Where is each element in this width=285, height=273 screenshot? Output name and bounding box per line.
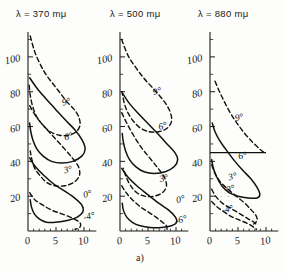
curve-label: 0° [175, 193, 186, 205]
x-tick-label: 0 [206, 234, 214, 246]
curve-6deg [212, 123, 260, 198]
x-tick-label: 5 [52, 235, 59, 247]
y-tick-label: 80 [101, 87, 114, 100]
y-tick-label: 20 [101, 191, 114, 204]
curve-label: 9° [61, 96, 72, 108]
x-tick-label: 10 [259, 234, 272, 247]
curve-9deg [29, 36, 80, 136]
curve-label: 0° [82, 188, 93, 200]
y-tick-label: 60 [101, 122, 114, 135]
x-tick-label: 0 [24, 234, 32, 246]
y-tick-label: 100 [96, 52, 114, 66]
figure-caption: a) [136, 252, 144, 263]
y-tick-label: 20 [191, 191, 204, 204]
panel-1: 2040608010005109°6°3°0°-4° [4, 32, 97, 247]
curve-label: 6° [157, 120, 168, 132]
curve-neg4deg [212, 201, 257, 229]
curve-label: 6° [63, 131, 74, 143]
y-tick-label: 40 [101, 156, 114, 169]
y-tick-label: 20 [9, 191, 22, 204]
y-tick-label: 40 [191, 156, 204, 169]
curve-label: -6° [174, 213, 188, 226]
y-tick-label: 100 [4, 52, 22, 66]
curve-label: 3° [61, 164, 73, 176]
curve-label: -4° [220, 203, 234, 216]
x-tick-label: 0 [116, 234, 124, 246]
curve-label: 9° [152, 85, 163, 97]
panel-3: 2040608010005109°6°3°0°-4° [186, 32, 279, 247]
y-tick-label: 80 [191, 87, 204, 100]
curve-6deg [122, 92, 178, 174]
figure-svg: 2040608010005109°6°3°0°-4°20406080100051… [0, 0, 285, 273]
curve-label: 0° [225, 183, 236, 195]
x-tick-label: 10 [169, 234, 182, 247]
y-tick-label: 40 [9, 156, 22, 169]
y-tick-label: 60 [191, 122, 204, 135]
x-tick-label: 5 [234, 235, 241, 247]
curve-3deg [30, 106, 80, 187]
panel-2: 2040608010005109°6°3°0°-6° [96, 32, 189, 247]
y-tick-label: 100 [186, 52, 204, 66]
y-tick-label: 80 [9, 87, 22, 100]
curve-label: 9° [234, 111, 245, 123]
curve-neg4deg [30, 193, 81, 230]
curve-label: 3° [157, 172, 169, 184]
x-tick-label: 10 [77, 234, 90, 247]
curve-label: -4° [82, 210, 96, 223]
figure-container: λ = 370 mμ λ = 500 mμ λ = 880 mμ 2040608… [0, 0, 285, 273]
curve-0deg [30, 158, 84, 223]
curve-label: 6° [237, 150, 248, 162]
x-tick-label: 5 [144, 235, 151, 247]
y-tick-label: 60 [9, 122, 22, 135]
curve-label: 3° [226, 171, 238, 183]
curve-9deg [122, 39, 172, 132]
